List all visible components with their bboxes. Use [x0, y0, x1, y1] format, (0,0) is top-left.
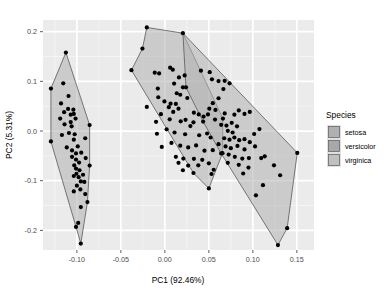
data-point [74, 151, 78, 155]
legend-label-virginica: virginica [345, 156, 371, 165]
data-point [206, 112, 210, 116]
data-point [178, 144, 182, 148]
data-point [224, 123, 228, 127]
data-point [172, 130, 176, 134]
data-point [207, 186, 211, 190]
data-point [213, 108, 217, 112]
data-point [77, 160, 81, 164]
data-point [248, 140, 252, 144]
panel-group [43, 20, 314, 250]
data-point [232, 135, 236, 139]
data-point [208, 70, 212, 74]
data-point [216, 142, 220, 146]
data-point [159, 112, 163, 116]
data-point [261, 183, 265, 187]
data-point [174, 155, 178, 159]
data-point [72, 138, 76, 142]
chart-canvas: -0.10-0.050.000.050.100.15 0.20.10.0-0.1… [0, 0, 391, 298]
data-point [257, 127, 261, 131]
data-point [242, 137, 246, 141]
data-point [181, 157, 185, 161]
data-point [192, 111, 196, 115]
data-point [252, 132, 256, 136]
data-point [62, 122, 66, 126]
data-point [229, 146, 233, 150]
x-tick-label: 0.10 [246, 255, 260, 264]
data-point [242, 112, 246, 116]
data-point [213, 118, 217, 122]
x-tick-label: 0.00 [158, 255, 172, 264]
legend: Species setosaversicolorvirginica [326, 110, 376, 167]
data-point [73, 132, 77, 136]
data-point [188, 124, 192, 128]
data-point [61, 81, 65, 85]
data-point [197, 133, 201, 137]
data-point [272, 163, 276, 167]
x-tick-label: 0.05 [202, 255, 216, 264]
data-point [237, 108, 241, 112]
data-point [181, 168, 185, 172]
data-point [207, 107, 211, 111]
data-point [199, 69, 203, 73]
data-point [247, 156, 251, 160]
legend-swatch-virginica[interactable] [329, 155, 340, 166]
data-point [78, 187, 82, 191]
x-axis: -0.10-0.050.000.050.100.15 [69, 250, 304, 264]
data-point [71, 108, 75, 112]
data-point [285, 226, 289, 230]
data-point [156, 95, 160, 99]
data-point [74, 225, 78, 229]
data-point [59, 101, 63, 105]
y-axis: 0.20.10.0-0.1-0.2 [25, 27, 43, 235]
data-point [216, 79, 220, 83]
x-axis-title: PC1 (92.46%) [152, 275, 205, 285]
data-point [72, 112, 76, 116]
data-point [176, 161, 180, 165]
data-point [140, 46, 144, 50]
data-point [76, 144, 80, 148]
data-point [221, 87, 225, 91]
data-point [181, 31, 185, 35]
data-point [174, 102, 178, 106]
y-axis-title: PC2 (5.31%) [4, 111, 14, 159]
data-point [64, 50, 68, 54]
data-point [156, 86, 160, 90]
data-point [183, 132, 187, 136]
legend-swatch-setosa[interactable] [329, 127, 340, 138]
legend-label-versicolor: versicolor [345, 142, 376, 151]
data-point [192, 157, 196, 161]
data-point [66, 107, 70, 111]
data-point [226, 129, 230, 133]
data-point [66, 94, 70, 98]
data-point [49, 86, 53, 90]
data-point [67, 131, 71, 135]
data-point [79, 241, 83, 245]
data-point [76, 221, 80, 225]
data-point [227, 153, 231, 157]
data-point [185, 96, 189, 100]
data-point [227, 81, 231, 85]
data-point [186, 163, 190, 167]
y-tick-label: 0.0 [27, 127, 37, 136]
data-point [79, 205, 83, 209]
legend-swatch-versicolor[interactable] [329, 141, 340, 152]
y-tick-label: 0.1 [27, 77, 37, 86]
data-point [212, 168, 216, 172]
data-point [79, 179, 83, 183]
data-point [157, 71, 161, 75]
data-point [223, 144, 227, 148]
data-point [240, 157, 244, 161]
data-point [233, 155, 237, 159]
data-point [232, 113, 236, 117]
data-point [49, 139, 53, 143]
y-tick-label: 0.2 [27, 27, 37, 36]
data-point [153, 71, 157, 75]
data-point [145, 105, 149, 109]
data-point [205, 131, 209, 135]
data-point [129, 68, 133, 72]
data-point [183, 118, 187, 122]
data-point [58, 117, 62, 121]
data-point [235, 144, 239, 148]
data-point [165, 127, 169, 131]
data-point [191, 171, 195, 175]
